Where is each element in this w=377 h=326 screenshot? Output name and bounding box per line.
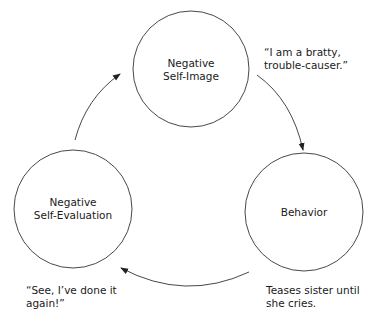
annotation-line: trouble-causer.” <box>264 59 348 72</box>
node-label-line: Negative <box>23 196 123 209</box>
annotation-line: “See, I’ve done it <box>26 284 117 297</box>
annotation-line: “I am a bratty, <box>264 46 348 59</box>
arrow-self-image-to-behavior <box>257 75 303 150</box>
node-label-line: Self-Image <box>141 70 241 83</box>
node-label-behavior: Behavior <box>254 206 354 219</box>
annotation-line: again!” <box>26 297 117 310</box>
annotation-line: Teases sister until <box>266 284 360 297</box>
annotation-self-evaluation: “See, I’ve done it again!” <box>26 284 117 310</box>
arrow-behavior-to-self-evaluation <box>121 268 249 286</box>
node-label-line: Self-Evaluation <box>23 209 123 222</box>
node-label-self-evaluation: Negative Self-Evaluation <box>23 196 123 222</box>
node-label-line: Negative <box>141 57 241 70</box>
annotation-line: she cries. <box>266 297 360 310</box>
arrow-self-evaluation-to-self-image <box>75 74 120 140</box>
node-label-self-image: Negative Self-Image <box>141 57 241 83</box>
node-label-line: Behavior <box>254 206 354 219</box>
annotation-self-image: “I am a bratty, trouble-causer.” <box>264 46 348 72</box>
annotation-behavior: Teases sister until she cries. <box>266 284 360 310</box>
